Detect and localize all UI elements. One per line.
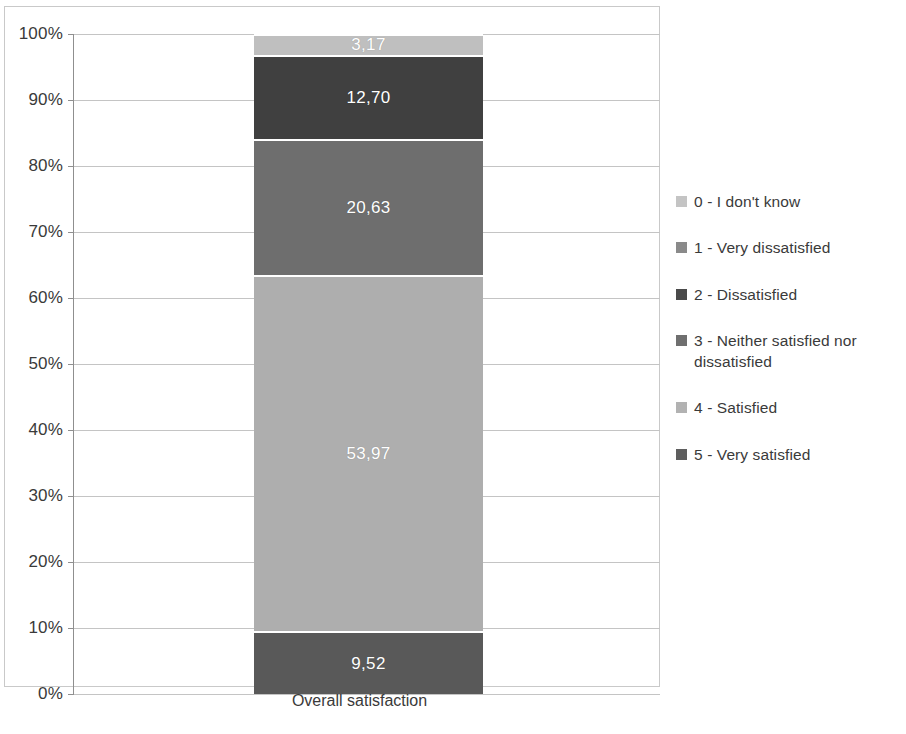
y-tick-mark (68, 430, 74, 431)
plot-area: 100%90%80%70%60%50%40%30%20%10%0% 3,1712… (73, 34, 660, 694)
y-tick-mark (68, 628, 74, 629)
legend-item-label: 0 - I don't know (694, 192, 800, 212)
bar-segment-value-label: 20,63 (346, 198, 390, 218)
legend-item-label: 5 - Very satisfied (694, 445, 810, 465)
legend-item-4[interactable]: 4 - Satisfied (676, 398, 898, 418)
legend-swatch-3-icon (676, 335, 687, 346)
y-tick-label: 10% (28, 618, 63, 638)
bar-segment-value-label: 12,70 (346, 88, 390, 108)
legend-item-label: 1 - Very dissatisfied (694, 238, 831, 258)
category-label-text: Overall satisfaction (292, 692, 427, 710)
y-tick-mark (68, 364, 74, 365)
y-tick-label: 60% (28, 288, 63, 308)
y-tick-mark (68, 166, 74, 167)
y-tick-mark (68, 496, 74, 497)
y-tick-mark (68, 298, 74, 299)
legend-item-label: 2 - Dissatisfied (694, 285, 797, 305)
legend-item-3[interactable]: 3 - Neither satisfied nor dissatisfied (676, 331, 898, 372)
bar-segment-2[interactable]: 20,63 (254, 139, 483, 275)
bar-segment-value-label: 53,97 (346, 444, 390, 464)
legend-swatch-0-icon (676, 196, 687, 207)
bar-segment-value-label: 3,17 (351, 35, 385, 54)
y-tick-label: 70% (28, 222, 63, 242)
bar-segment-4[interactable]: 53,97 (254, 275, 483, 631)
y-tick-label: 20% (28, 552, 63, 572)
bar-segment-value-label: 9,52 (351, 654, 385, 674)
y-tick-label: 90% (28, 90, 63, 110)
legend-swatch-1-icon (676, 242, 687, 253)
y-tick-mark (68, 34, 74, 35)
y-tick-label: 40% (28, 420, 63, 440)
bar-segment-0[interactable]: 3,17 (254, 34, 483, 55)
y-tick-mark (68, 232, 74, 233)
y-tick-mark (68, 562, 74, 563)
legend-item-label: 3 - Neither satisfied nor dissatisfied (694, 331, 898, 372)
legend-swatch-5-icon (676, 449, 687, 460)
y-tick-mark (68, 100, 74, 101)
y-tick-label: 50% (28, 354, 63, 374)
stacked-bar-overall-satisfaction[interactable]: 3,1712,7020,6353,979,52 (254, 34, 483, 694)
chart-legend: 0 - I don't know1 - Very dissatisfied2 -… (676, 192, 898, 491)
legend-item-2[interactable]: 2 - Dissatisfied (676, 285, 898, 305)
legend-swatch-2-icon (676, 289, 687, 300)
y-tick-label: 100% (19, 24, 63, 44)
legend-swatch-4-icon (676, 402, 687, 413)
legend-item-0[interactable]: 0 - I don't know (676, 192, 898, 212)
x-axis-category-label: Overall satisfaction (68, 692, 655, 710)
bar-segment-1[interactable]: 12,70 (254, 55, 483, 139)
chart-frame: 100%90%80%70%60%50%40%30%20%10%0% 3,1712… (4, 6, 660, 687)
legend-item-5[interactable]: 5 - Very satisfied (676, 445, 898, 465)
legend-item-label: 4 - Satisfied (694, 398, 777, 418)
y-tick-label: 30% (28, 486, 63, 506)
legend-item-1[interactable]: 1 - Very dissatisfied (676, 238, 898, 258)
y-tick-label: 80% (28, 156, 63, 176)
bar-segment-5[interactable]: 9,52 (254, 631, 483, 694)
y-tick-label: 0% (38, 684, 63, 704)
